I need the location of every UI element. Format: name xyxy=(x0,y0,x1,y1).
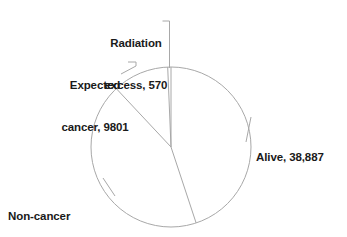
slice-label-expected-cancer-line2: cancer, 9801 xyxy=(40,120,150,134)
slice-label-expected-cancer: Expected cancer, 9801 xyxy=(40,50,150,162)
pie-chart: Radiation excess, 570 Expected cancer, 9… xyxy=(0,0,347,237)
slice-label-alive: Alive, 38,887 xyxy=(256,122,324,192)
slice-label-expected-cancer-line1: Expected xyxy=(40,78,150,92)
slice-divider-alive-noncancer xyxy=(171,147,196,223)
leader-line-noncancer xyxy=(103,178,115,196)
slice-label-alive-line1: Alive, 38,887 xyxy=(256,150,324,164)
slice-label-radiation-excess-line1: Radiation xyxy=(84,36,188,50)
slice-label-non-cancer-deaths-line1: Non-cancer xyxy=(8,209,85,223)
slice-label-non-cancer-deaths: Non-cancer deaths, 37,317 xyxy=(8,181,85,237)
